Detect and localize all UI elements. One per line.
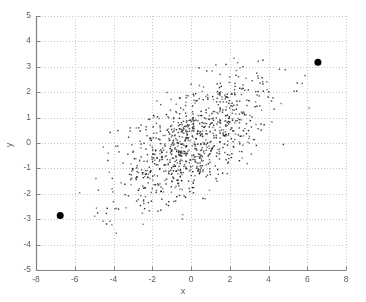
y-tick-label: -5 — [9, 264, 31, 274]
y-tick-label: 5 — [9, 10, 31, 20]
y-tick-label: 3 — [9, 61, 31, 71]
y-tick-label: -2 — [9, 188, 31, 198]
x-tick-label: -6 — [63, 274, 87, 284]
x-tick-label: 0 — [179, 274, 203, 284]
y-tick-label: 4 — [9, 35, 31, 45]
x-tick-label: 4 — [257, 274, 281, 284]
y-tick-label: -3 — [9, 213, 31, 223]
y-tick-label: 1 — [9, 112, 31, 122]
x-tick-label: -4 — [102, 274, 126, 284]
x-tick-label: 6 — [295, 274, 319, 284]
x-tick-label: 8 — [334, 274, 358, 284]
y-tick-label: -1 — [9, 162, 31, 172]
x-tick-label: -8 — [24, 274, 48, 284]
scatter-plot-figure: x y -8-6-4-202468 -5-4-3-2-1012345 — [0, 0, 366, 302]
x-tick-label: -2 — [140, 274, 164, 284]
y-tick-label: -4 — [9, 239, 31, 249]
scatter-plot-canvas — [0, 0, 366, 302]
y-tick-label: 0 — [9, 137, 31, 147]
x-axis-label: x — [0, 286, 366, 296]
y-tick-label: 2 — [9, 86, 31, 96]
x-tick-label: 2 — [218, 274, 242, 284]
